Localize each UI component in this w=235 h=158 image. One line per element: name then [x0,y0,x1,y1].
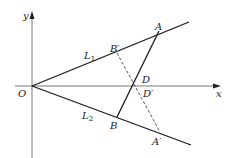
y-axis-label: y [22,10,29,21]
point-bprime-label: B′ [109,43,120,54]
point-dprime-label: D′ [142,88,154,99]
line-l1-label: L1 [83,50,95,63]
line-l1 [32,22,189,86]
point-a-label: A [154,21,162,32]
reflection-diagram: y x O L1 L2 A B′ D D′ B A′ [0,0,235,158]
line-l2-label: L2 [81,110,93,123]
x-axis-label: x [216,88,222,99]
point-b-label: B [109,120,117,131]
origin-label: O [18,88,26,99]
point-aprime-label: A′ [151,136,162,147]
point-d-label: D [141,74,150,85]
y-axis-arrow-icon [30,11,35,19]
line-l2 [32,86,191,145]
segment-ab [117,31,159,117]
